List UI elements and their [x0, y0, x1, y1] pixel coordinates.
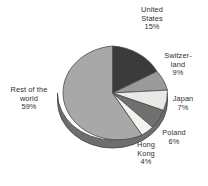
label-hong-kong-value: 4%	[124, 158, 168, 167]
pie-chart: United States 15% Switzer- land 9% Japan…	[0, 0, 208, 186]
label-united-states: United States 15%	[124, 6, 180, 32]
label-switzerland: Switzer- land 9%	[154, 52, 202, 78]
label-rest-of-world-value: 59%	[2, 103, 56, 112]
label-hong-kong: Hong Kong 4%	[124, 141, 168, 167]
label-japan: Japan 7%	[162, 95, 204, 112]
label-united-states-value: 15%	[124, 23, 180, 32]
label-japan-value: 7%	[162, 104, 204, 113]
label-rest-of-world: Rest of the world 59%	[2, 86, 56, 112]
label-switzerland-value: 9%	[154, 69, 202, 78]
pie-slices	[63, 46, 167, 140]
